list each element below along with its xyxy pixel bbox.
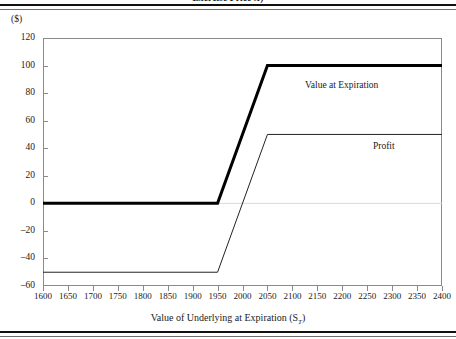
x-tick-mark bbox=[68, 286, 69, 291]
y-tick-label: 80 bbox=[5, 88, 35, 98]
y-tick-label: 60 bbox=[5, 116, 35, 126]
y-tick-label: –60 bbox=[5, 281, 35, 291]
figure-caption-suffix: ) bbox=[260, 0, 263, 3]
x-tick-mark bbox=[218, 286, 219, 291]
x-tick-mark bbox=[43, 286, 44, 291]
x-tick-label: 2400 bbox=[422, 291, 456, 301]
x-tick-mark bbox=[243, 286, 244, 291]
y-axis-units-label: ($) bbox=[11, 14, 22, 24]
x-tick-mark bbox=[193, 286, 194, 291]
x-tick-mark bbox=[118, 286, 119, 291]
figure-caption-prefix: Exercise Price bbox=[192, 0, 253, 3]
x-tick-mark bbox=[392, 286, 393, 291]
x-tick-mark bbox=[417, 286, 418, 291]
y-tick-label: 100 bbox=[5, 61, 35, 71]
x-tick-mark bbox=[442, 286, 443, 291]
x-tick-mark bbox=[93, 286, 94, 291]
x-axis-title: Value of Underlying at Expiration (ST) bbox=[0, 312, 456, 326]
y-tick-label: 40 bbox=[5, 143, 35, 153]
x-axis-title-close: ) bbox=[302, 312, 305, 323]
x-tick-mark bbox=[168, 286, 169, 291]
chart-plot bbox=[43, 38, 442, 286]
x-tick-mark bbox=[342, 286, 343, 291]
header-rule-thick bbox=[0, 4, 456, 6]
y-tick-label: –20 bbox=[5, 226, 35, 236]
y-tick-label: 0 bbox=[5, 198, 35, 208]
x-tick-mark bbox=[267, 286, 268, 291]
x-tick-mark bbox=[143, 286, 144, 291]
footer-rule-thick bbox=[0, 331, 456, 333]
footer-rule-thin bbox=[0, 336, 456, 337]
x-axis-title-text: Value of Underlying at Expiration (S bbox=[151, 312, 298, 323]
header-rule-thin bbox=[0, 9, 456, 10]
y-tick-label: –40 bbox=[5, 253, 35, 263]
x-tick-mark bbox=[367, 286, 368, 291]
x-tick-mark bbox=[292, 286, 293, 291]
series-label-profit: Profit bbox=[373, 141, 395, 151]
series-label-value-at-expiration: Value at Expiration bbox=[305, 80, 378, 90]
y-tick-label: 120 bbox=[5, 33, 35, 43]
y-tick-label: 20 bbox=[5, 171, 35, 181]
x-tick-mark bbox=[317, 286, 318, 291]
